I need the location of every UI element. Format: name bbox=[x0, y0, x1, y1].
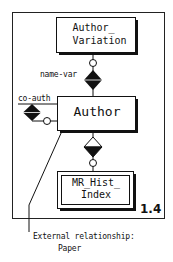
er-diagram: Author_ Variation name-var co-auth Autho… bbox=[0, 0, 173, 262]
author-label: Author bbox=[58, 104, 136, 119]
co-auth-optional-circle bbox=[44, 118, 51, 125]
mr-hist-index-line1: MR_Hist_ bbox=[58, 177, 134, 189]
hist-index-diamond-top-icon bbox=[84, 137, 102, 147]
mr-hist-index-label: MR_Hist_ Index bbox=[58, 177, 134, 201]
figure-number: 1.4 bbox=[140, 202, 161, 216]
hist-index-diamond-bottom-icon bbox=[84, 147, 102, 157]
co-auth-label: co-auth bbox=[18, 94, 50, 103]
external-relationship-name: Paper bbox=[58, 244, 81, 253]
name-var-optional-circle bbox=[90, 60, 97, 67]
mr-hist-index-line2: Index bbox=[58, 189, 134, 201]
author-variation-line2: Variation bbox=[57, 34, 136, 47]
author-variation-label: Author_ Variation bbox=[57, 21, 136, 47]
hist-index-optional-circle bbox=[90, 160, 97, 167]
author-variation-line1: Author_ bbox=[57, 21, 136, 34]
name-var-label: name-var bbox=[40, 70, 77, 79]
external-relationship-label: External relationship: bbox=[33, 232, 135, 241]
